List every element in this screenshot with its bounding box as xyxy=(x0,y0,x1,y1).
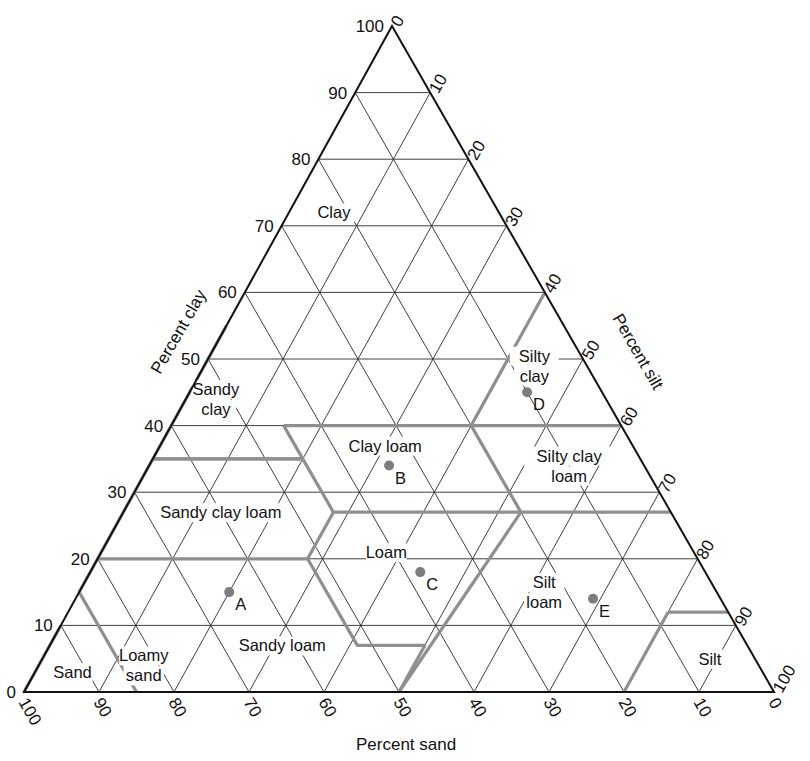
sample-point-d xyxy=(522,387,532,397)
region-label-clay: Clay xyxy=(317,203,351,221)
sample-point-e xyxy=(588,594,598,604)
region-label-silty-clay: clay xyxy=(520,367,550,385)
sample-point-c xyxy=(415,567,425,577)
grid-line-silt xyxy=(399,359,583,692)
sand-tick: 100 xyxy=(15,695,46,729)
region-label-silt-loam: loam xyxy=(526,593,562,611)
soil-texture-triangle: ClaySiltyclaySandyclayClay loamSilty cla… xyxy=(0,0,810,761)
clay-tick: 20 xyxy=(71,550,90,569)
region-label-clay-loam: Clay loam xyxy=(348,437,421,455)
class-boundary xyxy=(624,612,668,692)
clay-tick: 90 xyxy=(328,84,347,103)
clay-tick: 70 xyxy=(255,217,274,236)
sand-tick: 0 xyxy=(765,695,786,713)
grid-lines xyxy=(61,93,736,692)
region-label-sandy-loam: Sandy loam xyxy=(239,636,326,654)
sand-tick: 70 xyxy=(240,695,266,721)
clay-tick: 80 xyxy=(291,150,310,169)
sample-point-label: B xyxy=(395,469,406,487)
region-label-silty-clay: Silty xyxy=(519,347,551,365)
sand-axis-label: Percent sand xyxy=(356,735,456,754)
grid-line-silt xyxy=(549,492,659,692)
region-label-silty-clay-loam: Silty clay xyxy=(537,447,603,465)
region-label-silt-loam: Silt xyxy=(533,573,556,591)
clay-tick: 40 xyxy=(144,417,163,436)
sand-tick: 60 xyxy=(315,695,341,721)
sample-point-b xyxy=(384,461,394,471)
sand-tick: 50 xyxy=(390,695,416,721)
clay-tick: 50 xyxy=(181,350,200,369)
sample-point-a xyxy=(224,587,234,597)
clay-tick: 10 xyxy=(34,616,53,635)
sand-tick: 80 xyxy=(165,695,191,721)
region-label-silty-clay-loam: loam xyxy=(551,467,587,485)
region-labels: ClaySiltyclaySandyclayClay loamSilty cla… xyxy=(52,203,730,685)
sand-tick: 40 xyxy=(465,695,491,721)
axis-ticks: 0102030405060708090100010203040506070809… xyxy=(7,12,800,728)
region-label-loam: Loam xyxy=(366,543,407,561)
class-boundary xyxy=(399,512,521,692)
sample-point-label: A xyxy=(235,595,246,613)
region-label-silt: Silt xyxy=(698,650,721,668)
region-label-loamy-sand: sand xyxy=(126,666,162,684)
grid-line-silt xyxy=(99,93,430,692)
clay-tick: 100 xyxy=(356,17,384,36)
region-label-loamy-sand: Loamy xyxy=(119,646,169,664)
sand-tick: 30 xyxy=(540,695,566,721)
region-label-sandy-clay-loam: Sandy clay loam xyxy=(160,503,281,521)
clay-tick: 30 xyxy=(107,483,126,502)
class-boundary xyxy=(308,512,425,692)
clay-axis-label: Percent clay xyxy=(147,286,210,377)
grid-line-sand xyxy=(282,226,549,692)
sample-point-label: C xyxy=(426,575,438,593)
region-label-sandy-clay: Sandy xyxy=(193,380,241,398)
region-label-sand: Sand xyxy=(53,663,92,681)
silt-axis-label: Percent silt xyxy=(609,311,668,394)
clay-tick: 60 xyxy=(218,283,237,302)
region-label-sandy-clay: clay xyxy=(201,400,231,418)
sand-tick: 10 xyxy=(690,695,716,721)
sand-tick: 90 xyxy=(90,695,116,721)
sample-point-label: E xyxy=(599,602,610,620)
sand-tick: 20 xyxy=(615,695,641,721)
clay-tick: 0 xyxy=(7,683,16,702)
sample-point-label: D xyxy=(533,395,545,413)
